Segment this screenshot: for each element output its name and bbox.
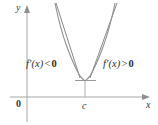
left-derivative-argument: (x) [31, 58, 43, 69]
critical-point-label: c [82, 101, 86, 111]
y-axis-arrow-icon [24, 5, 30, 13]
y-axis-label: y [16, 3, 20, 13]
figure-canvas [0, 0, 158, 125]
right-derivative-annotation: f′(x)>0 [103, 59, 134, 70]
origin-label: 0 [16, 99, 21, 109]
left-derivative-annotation: f′(x)<0 [26, 59, 57, 70]
calculus-derivative-sign-figure: y x 0 c f′(x)<0 f′(x)>0 [0, 0, 158, 125]
left-derivative-value: 0 [51, 58, 56, 69]
right-derivative-argument: (x) [108, 58, 120, 69]
x-axis-label: x [146, 100, 150, 110]
tangent-line-left [56, 3, 80, 78]
right-derivative-value: 0 [128, 58, 133, 69]
